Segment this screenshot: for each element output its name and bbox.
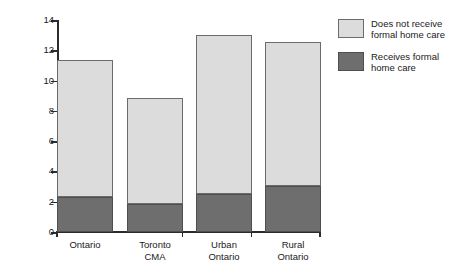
legend-item-does-not-receive: Does not receive formal home care [338,18,450,40]
legend-label-receives: Receives formal home care [371,51,439,73]
legend-swatch-light-icon [338,19,364,38]
bar-urban-ontario [196,20,252,232]
y-tick-label: 6 [49,136,54,146]
x-tick-mark-1 [182,231,184,237]
bar-ontario [57,20,113,232]
y-tick-label: 4 [49,167,54,177]
bar-segment-does-not-receive [196,35,252,194]
y-tick-label: 0 [49,227,54,237]
y-tick-label: 14 [43,15,54,25]
y-tick-label: 2 [49,197,54,207]
chart-legend: Does not receive formal home care Receiv… [338,18,450,84]
y-tick-label: 12 [43,46,54,56]
bar-segment-receives [57,197,113,232]
bar-toronto-cma [127,20,183,232]
bar-segment-does-not-receive [57,60,113,196]
bar-segment-receives [265,186,321,231]
chart-figure: % of total population 02468101214 Ontari… [0,0,454,278]
bar-segment-receives [127,204,183,231]
bar-rural-ontario [265,20,321,232]
bar-segment-receives [196,194,252,232]
plot-area: % of total population 02468101214 Ontari… [57,20,320,232]
x-tick-mark-3 [319,231,321,237]
bar-segment-does-not-receive [265,42,321,186]
x-axis-label-rural-ontario: Rural Ontario [251,239,335,262]
x-tick-mark-0 [56,231,58,237]
y-tick-label: 8 [49,106,54,116]
y-tick-label: 10 [43,76,54,86]
bar-segment-does-not-receive [127,98,183,204]
x-tick-mark-2 [251,231,253,237]
legend-item-receives: Receives formal home care [338,51,450,73]
legend-label-does-not-receive: Does not receive formal home care [371,18,445,40]
legend-swatch-dark-icon [338,52,364,71]
